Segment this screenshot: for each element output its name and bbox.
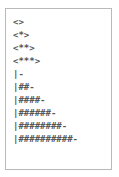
ascii-line: |##########- (13, 133, 78, 146)
ascii-line: <> (13, 16, 78, 29)
ascii-line: <***> (13, 55, 78, 68)
ascii-line: |##- (13, 81, 78, 94)
ascii-art-panel: <><*><**><***>|-|##-|####-|######-|#####… (5, 8, 112, 170)
ascii-line: |########- (13, 120, 78, 133)
ascii-line: |######- (13, 107, 78, 120)
ascii-line: |####- (13, 94, 78, 107)
ascii-art-block: <><*><**><***>|-|##-|####-|######-|#####… (13, 16, 78, 146)
ascii-line: |- (13, 68, 78, 81)
ascii-line: <**> (13, 42, 78, 55)
ascii-line: <*> (13, 29, 78, 42)
screen-root: <><*><**><***>|-|##-|####-|######-|#####… (0, 0, 119, 177)
